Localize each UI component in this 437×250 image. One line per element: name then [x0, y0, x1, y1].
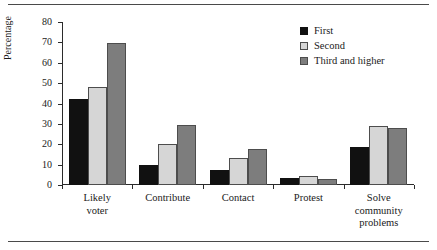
legend-swatch-icon: [300, 27, 308, 35]
x-axis-tick: [414, 185, 415, 189]
bar: [229, 158, 248, 186]
legend-item-label: Second: [314, 40, 345, 52]
bar: [88, 87, 107, 185]
bar-group: [139, 22, 196, 185]
y-axis-tick-label: 40: [0, 97, 52, 110]
y-axis-tick-label: 30: [0, 117, 52, 130]
x-axis-tick: [203, 185, 204, 189]
chart-legend: FirstSecondThird and higher: [300, 24, 385, 69]
x-axis-category-label: Solve community problems: [344, 192, 414, 230]
x-axis-category-label: Likely voter: [62, 192, 132, 217]
legend-item[interactable]: First: [300, 24, 385, 38]
bar: [158, 144, 177, 185]
legend-item[interactable]: Third and higher: [300, 54, 385, 68]
x-axis-category-label: Contribute: [132, 192, 202, 205]
legend-item-label: First: [314, 25, 333, 37]
top-divider-rule: [8, 4, 429, 5]
bar-group: [69, 22, 126, 185]
bar: [280, 178, 299, 185]
y-axis-tick-label: 70: [0, 35, 52, 48]
bar: [107, 43, 126, 185]
y-axis-tick-label: 50: [0, 76, 52, 89]
y-axis-tick-label: 10: [0, 158, 52, 171]
bar: [369, 126, 388, 185]
x-axis-tick: [132, 185, 133, 189]
bar: [69, 99, 88, 185]
x-axis-category-label: Contact: [203, 192, 273, 205]
bar: [210, 170, 229, 185]
x-axis-tick: [62, 185, 63, 189]
bar: [248, 149, 267, 185]
bar: [388, 128, 407, 185]
bar: [318, 179, 337, 185]
y-axis-tick-label: 0: [0, 178, 52, 191]
x-axis-tick: [273, 185, 274, 189]
x-axis-category-label: Protest: [273, 192, 343, 205]
y-axis-tick-label: 80: [0, 15, 52, 28]
bar: [177, 125, 196, 185]
bottom-divider-rule: [8, 241, 429, 242]
y-axis-tick-label: 60: [0, 56, 52, 69]
legend-swatch-icon: [300, 42, 308, 50]
x-axis-tick: [344, 185, 345, 189]
bar: [350, 147, 369, 185]
legend-item[interactable]: Second: [300, 39, 385, 53]
bar: [299, 176, 318, 185]
figure-container: Percentage 01020304050607080 Likely vote…: [0, 0, 437, 250]
y-axis-tick-label: 20: [0, 137, 52, 150]
bar-group: [210, 22, 267, 185]
bar: [139, 165, 158, 185]
legend-item-label: Third and higher: [314, 55, 385, 67]
legend-swatch-icon: [300, 57, 308, 65]
